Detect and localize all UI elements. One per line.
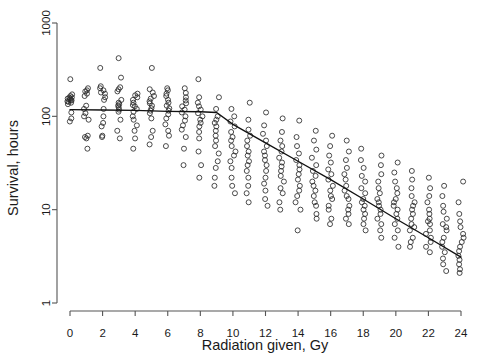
data-point bbox=[85, 146, 90, 151]
data-point bbox=[229, 144, 234, 149]
data-point bbox=[131, 117, 136, 122]
data-point bbox=[117, 136, 122, 141]
data-point bbox=[296, 151, 301, 156]
data-point bbox=[459, 240, 464, 245]
data-point bbox=[265, 203, 270, 208]
data-point bbox=[69, 116, 74, 121]
data-point bbox=[379, 172, 384, 177]
data-point bbox=[392, 170, 397, 175]
data-point bbox=[444, 216, 449, 221]
data-point bbox=[263, 175, 268, 180]
data-point bbox=[379, 153, 384, 158]
point-column-8gy bbox=[195, 77, 205, 181]
data-point bbox=[391, 203, 396, 208]
data-point bbox=[298, 207, 303, 212]
data-point bbox=[295, 144, 300, 149]
data-point bbox=[376, 186, 381, 191]
data-point bbox=[375, 216, 380, 221]
data-point bbox=[197, 95, 202, 100]
data-point bbox=[363, 228, 368, 233]
data-point bbox=[260, 131, 265, 136]
x-tick-label-22: 22 bbox=[422, 327, 435, 339]
data-point bbox=[394, 186, 399, 191]
data-point bbox=[359, 173, 364, 178]
data-point bbox=[98, 65, 103, 70]
point-column-5gy bbox=[147, 65, 156, 146]
data-point bbox=[246, 127, 251, 132]
data-point bbox=[363, 211, 368, 216]
point-column-10gy bbox=[228, 106, 238, 195]
point-column-6gy bbox=[163, 86, 172, 149]
y-tick-label-10: 10 bbox=[40, 203, 52, 216]
regression-line bbox=[70, 110, 461, 258]
data-point bbox=[294, 135, 299, 140]
data-point bbox=[344, 138, 349, 143]
data-point bbox=[197, 175, 202, 180]
data-point bbox=[328, 160, 333, 165]
y-tick-label-group: 1101001000 bbox=[40, 10, 52, 306]
data-point bbox=[297, 188, 302, 193]
data-point bbox=[409, 194, 414, 199]
data-point bbox=[149, 135, 154, 140]
point-column-21gy bbox=[407, 168, 417, 249]
point-column-1gy bbox=[82, 86, 92, 151]
data-point bbox=[68, 77, 73, 82]
data-point bbox=[229, 175, 234, 180]
point-column-15gy bbox=[309, 128, 319, 221]
point-column-18gy bbox=[358, 146, 368, 233]
data-point bbox=[409, 186, 414, 191]
data-point bbox=[246, 183, 251, 188]
data-point bbox=[131, 146, 136, 151]
data-point bbox=[329, 172, 334, 177]
data-point bbox=[424, 244, 429, 249]
data-point bbox=[196, 149, 201, 154]
data-point bbox=[213, 133, 218, 138]
y-tick-label-100: 100 bbox=[40, 107, 52, 126]
y-tick-label-1: 1 bbox=[40, 300, 52, 306]
data-point bbox=[228, 159, 233, 164]
data-point bbox=[279, 129, 284, 134]
data-point bbox=[329, 216, 334, 221]
data-point bbox=[229, 106, 234, 111]
data-point bbox=[246, 200, 251, 205]
data-point bbox=[119, 75, 124, 80]
data-point bbox=[163, 122, 168, 127]
data-point bbox=[197, 136, 202, 141]
data-point bbox=[163, 144, 168, 149]
data-point bbox=[408, 244, 413, 249]
data-point bbox=[313, 173, 318, 178]
data-point bbox=[181, 146, 186, 151]
data-point bbox=[314, 216, 319, 221]
data-point bbox=[379, 235, 384, 240]
data-point bbox=[457, 270, 462, 275]
data-point bbox=[197, 129, 202, 134]
data-point bbox=[314, 147, 319, 152]
data-point bbox=[428, 186, 433, 191]
data-point bbox=[396, 244, 401, 249]
data-point bbox=[328, 194, 333, 199]
data-point bbox=[196, 77, 201, 82]
data-point bbox=[86, 117, 91, 122]
x-axis: 024681012141618202224 bbox=[67, 311, 468, 339]
data-point bbox=[456, 200, 461, 205]
point-column-4gy bbox=[130, 91, 140, 151]
data-point bbox=[378, 163, 383, 168]
data-point bbox=[281, 179, 286, 184]
data-point bbox=[343, 216, 348, 221]
data-point bbox=[212, 183, 217, 188]
data-point bbox=[313, 188, 318, 193]
data-point bbox=[330, 197, 335, 202]
point-column-23gy bbox=[440, 183, 450, 273]
data-point bbox=[230, 183, 235, 188]
data-point bbox=[309, 155, 314, 160]
x-tick-label-20: 20 bbox=[389, 327, 402, 339]
data-point bbox=[232, 114, 237, 119]
data-point bbox=[183, 135, 188, 140]
data-point bbox=[134, 123, 139, 128]
data-point bbox=[130, 114, 135, 119]
data-point bbox=[247, 100, 252, 105]
point-column-12gy bbox=[260, 110, 270, 208]
data-point bbox=[326, 167, 331, 172]
data-point bbox=[359, 146, 364, 151]
data-point bbox=[166, 133, 171, 138]
